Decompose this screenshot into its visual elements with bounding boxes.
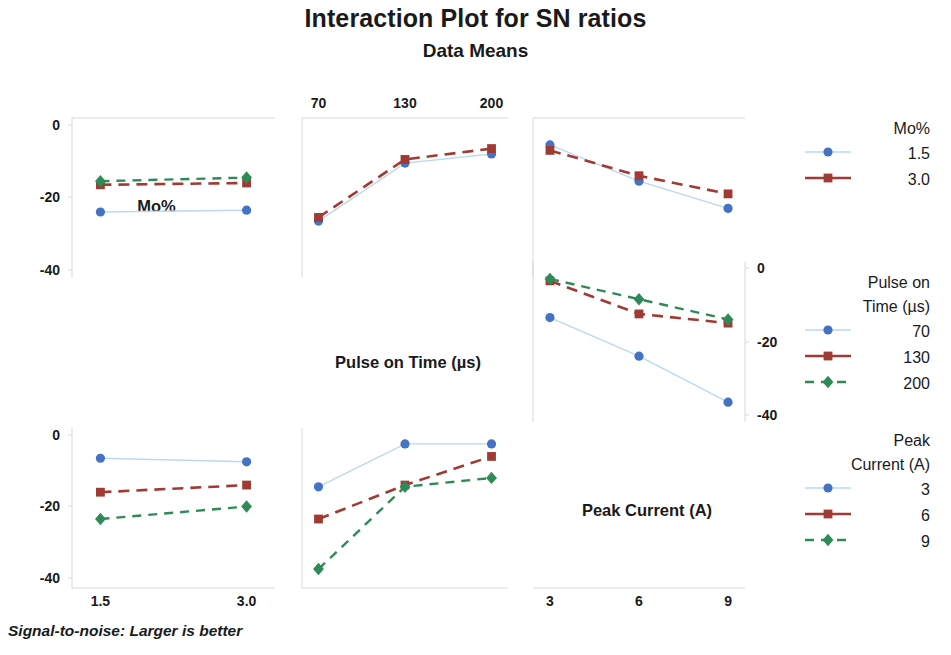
panel-title-pulse-on-time: Pulse on Time (µs) — [335, 353, 481, 371]
data-point-3 — [314, 482, 323, 491]
data-point-9 — [486, 472, 497, 484]
legend-mo-entry-3.0: 3.0 — [908, 171, 930, 188]
data-point-70 — [545, 313, 554, 322]
y-tick-label-top: -20 — [40, 189, 60, 205]
panel-peak-vs-pulse — [313, 439, 497, 575]
panel-title-mo: Mo% — [137, 197, 176, 215]
data-point-3.0 — [635, 171, 644, 180]
data-point-6 — [96, 488, 105, 497]
series-line-130 — [100, 183, 246, 185]
panel-titles: Mo%Pulse on Time (µs)Peak Current (A) — [137, 197, 712, 519]
y-tick-label-bottom: 0 — [52, 427, 60, 443]
legend-pulse-on-time-swatch-marker-130 — [824, 352, 833, 361]
series-line-6 — [100, 485, 246, 492]
series-line-70 — [100, 210, 246, 212]
data-point-3 — [400, 439, 409, 448]
axis-labels: 0-20-400-20-400-20-40701302001.53.0369 — [40, 95, 778, 609]
x-tick-label-top: 70 — [311, 95, 327, 111]
data-point-3.0 — [487, 144, 496, 153]
y-tick-label-bottom: -40 — [40, 570, 60, 586]
x-tick-label-bottom-right: 9 — [724, 593, 732, 609]
legend-peak-current-swatch-marker-3 — [823, 483, 832, 492]
x-tick-label-bottom-left: 3.0 — [237, 593, 257, 609]
x-tick-label-bottom-left: 1.5 — [91, 593, 111, 609]
legend-pulse-on-time-swatch-marker-70 — [823, 325, 832, 334]
x-tick-label-top: 130 — [393, 95, 417, 111]
data-point-3.0 — [314, 213, 323, 222]
y-tick-label-right: 0 — [757, 260, 765, 276]
x-tick-label-bottom-right: 3 — [546, 593, 554, 609]
data-point-6 — [487, 452, 496, 461]
legend-peak-current-entry-6: 6 — [921, 507, 930, 524]
legend-pulse-on-time-title: Time (µs) — [863, 298, 930, 315]
legend-peak-current: PeakCurrent (A)369 — [805, 432, 931, 550]
panel-mo-vs-pulse — [314, 144, 496, 225]
legend-peak-current-swatch-marker-9 — [823, 534, 834, 546]
footnote: Signal-to-noise: Larger is better — [8, 622, 242, 640]
interaction-plot-page: Interaction Plot for SN ratios Data Mean… — [0, 0, 951, 655]
panel-peak-vs-mo — [95, 454, 252, 526]
legend-mo-title: Mo% — [894, 120, 930, 137]
y-tick-label-top: 0 — [52, 117, 60, 133]
data-point-3.0 — [401, 155, 410, 164]
legend-peak-current-title: Peak — [894, 432, 931, 449]
data-point-3 — [96, 454, 105, 463]
data-point-6 — [314, 515, 323, 524]
series-line-9 — [100, 507, 246, 520]
legend-mo-entry-1.5: 1.5 — [908, 145, 930, 162]
data-point-1.5 — [723, 204, 732, 213]
x-tick-label-top: 200 — [480, 95, 504, 111]
legend-peak-current-entry-3: 3 — [921, 481, 930, 498]
series-line-3 — [100, 458, 246, 462]
legend-peak-current-title: Current (A) — [851, 456, 930, 473]
interaction-plot-matrix: 0-20-400-20-400-20-40701302001.53.0369Mo… — [0, 0, 951, 655]
panel-title-peak-current: Peak Current (A) — [582, 501, 712, 519]
data-point-70 — [634, 352, 643, 361]
panel-pulse-vs-peak — [545, 273, 734, 407]
legend-pulse-on-time-swatch-marker-200 — [823, 376, 834, 388]
data-point-130 — [635, 310, 644, 319]
legend-mo: Mo%1.53.0 — [805, 120, 930, 188]
data-point-200 — [634, 293, 645, 305]
legend-peak-current-swatch-marker-6 — [824, 510, 833, 519]
legend-pulse-on-time-entry-70: 70 — [912, 323, 930, 340]
legend-pulse-on-time: Pulse onTime (µs)70130200 — [805, 274, 930, 392]
y-tick-label-top: -40 — [40, 262, 60, 278]
x-tick-label-bottom-right: 6 — [635, 593, 643, 609]
legend-pulse-on-time-entry-200: 200 — [903, 375, 930, 392]
legend-pulse-on-time-title: Pulse on — [868, 274, 930, 291]
legend-mo-swatch-marker-1.5 — [823, 147, 832, 156]
legend-peak-current-entry-9: 9 — [921, 533, 930, 550]
data-point-3.0 — [546, 146, 555, 155]
data-point-3.0 — [724, 189, 733, 198]
y-tick-label-right: -40 — [757, 407, 777, 423]
data-point-3 — [487, 439, 496, 448]
data-point-70 — [242, 206, 251, 215]
data-point-70 — [96, 207, 105, 216]
y-tick-label-right: -20 — [757, 334, 777, 350]
data-point-70 — [723, 398, 732, 407]
data-point-3 — [242, 457, 251, 466]
data-point-9 — [95, 513, 106, 525]
legend-pulse-on-time-entry-130: 130 — [903, 349, 930, 366]
legend-mo-swatch-marker-3.0 — [824, 174, 833, 183]
y-tick-label-bottom: -20 — [40, 498, 60, 514]
data-point-6 — [242, 481, 251, 490]
series-line-200 — [100, 178, 246, 182]
panel-mo-vs-peak — [545, 140, 732, 213]
data-point-9 — [241, 500, 252, 512]
